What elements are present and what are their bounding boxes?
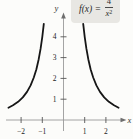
x-tick-label: 1: [83, 127, 87, 136]
x-tick-label: −1: [38, 127, 46, 136]
formula-denominator-exponent: 2: [109, 9, 112, 15]
curve-left-branch: [8, 24, 43, 108]
curve-right-branch: [83, 24, 118, 108]
formula-fx: f(x): [79, 4, 92, 14]
y-axis-arrow-icon: [61, 13, 66, 19]
x-tick-label: −2: [17, 127, 25, 136]
formula-denominator: x2: [105, 7, 114, 18]
x-axis-arrow-icon: [121, 118, 127, 123]
formula-equals: =: [95, 4, 100, 14]
formula-lhs: f(x)=: [79, 4, 102, 14]
x-tick-label: 2: [104, 127, 108, 136]
formula-label: f(x)= 4 x2: [71, 0, 120, 23]
y-axis-label: y: [54, 3, 59, 13]
function-plot-figure: −2−1121234xy f(x)= 4 x2: [0, 0, 133, 139]
formula-fraction: 4 x2: [105, 0, 114, 18]
y-tick-label: 4: [53, 32, 57, 41]
y-tick-label: 2: [53, 74, 57, 83]
x-axis-label: x: [127, 115, 132, 125]
y-tick-label: 1: [53, 95, 57, 104]
y-tick-label: 3: [53, 53, 57, 62]
